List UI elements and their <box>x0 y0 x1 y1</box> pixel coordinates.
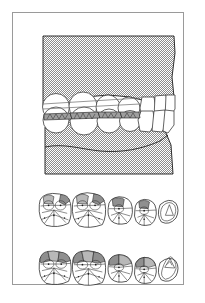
panel-lateral-occlusion-view <box>42 35 176 175</box>
lower-incisor-2 <box>163 110 174 133</box>
occl-lower-molar-1 <box>39 251 71 285</box>
occl-lower-canine <box>158 257 178 282</box>
panel-occlusal-view-lower <box>34 242 180 298</box>
occl-upper-premolar-1 <box>108 197 132 225</box>
dental-occlusion-figure <box>0 0 205 303</box>
occl-upper-canine <box>158 200 178 223</box>
figure-frame <box>12 12 184 285</box>
occl-upper-molar-2 <box>72 193 105 228</box>
lower-teeth-row <box>43 107 174 135</box>
panel-occlusal-view-upper <box>34 185 180 239</box>
occl-lower-premolar-2 <box>134 257 156 284</box>
lower-molar-2 <box>70 107 98 135</box>
occl-upper-molar-1 <box>39 193 71 226</box>
occl-upper-premolar-2 <box>134 199 156 226</box>
occl-lower-premolar-1 <box>108 255 132 283</box>
occl-lower-molar-2 <box>72 251 105 286</box>
